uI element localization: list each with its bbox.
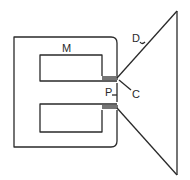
diaphragm-leader [140, 42, 145, 44]
cone-lower-edge [117, 108, 177, 175]
cone-upper-edge [117, 11, 177, 78]
label-magnet: M [62, 42, 71, 54]
coil-leader [119, 80, 131, 90]
loudspeaker-diagram: M P C D [0, 0, 190, 180]
label-pole: P [105, 86, 112, 98]
label-diaphragm: D [132, 32, 140, 44]
label-coil: C [132, 88, 140, 100]
